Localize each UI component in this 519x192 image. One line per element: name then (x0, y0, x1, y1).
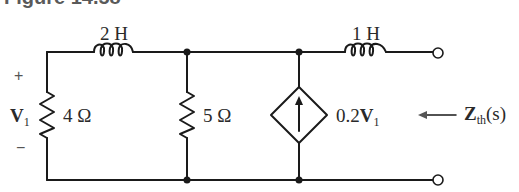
zth-arrowhead-icon (418, 111, 427, 119)
inductor-1h (345, 44, 386, 56)
v1-subscript: 1 (24, 115, 30, 129)
label-source-value: 0.2V1 (336, 106, 379, 125)
zth-subscript: th (477, 113, 486, 127)
label-zth: Zth(s) (464, 104, 506, 123)
node-dot-top-mid (184, 49, 191, 56)
node-dot-top-src (296, 49, 303, 56)
node-dot-bottom-src (296, 177, 303, 184)
label-4-ohm: 4 Ω (63, 106, 91, 125)
inductor-2h (94, 44, 133, 56)
source-var: V (360, 105, 374, 126)
minus-sign: − (16, 140, 25, 156)
circuit-diagram: Figure 14.58 (0, 0, 519, 192)
source-coef: 0.2 (336, 105, 360, 126)
source-subscript: 1 (373, 115, 379, 129)
zth-arg: (s) (486, 103, 506, 124)
label-2h: 2 H (100, 24, 128, 43)
plus-sign: + (14, 68, 23, 84)
source-arrow-icon (295, 96, 303, 105)
node-dot-bottom-mid (184, 177, 191, 184)
label-5-ohm: 5 Ω (203, 106, 231, 125)
label-1h: 1 H (352, 24, 380, 43)
terminal-bottom (433, 175, 443, 185)
resistor-5-ohm (180, 92, 194, 138)
circuit-schematic (0, 0, 519, 192)
resistor-4-ohm (40, 92, 54, 138)
v1-main: V (10, 105, 24, 126)
label-v1: V1 (10, 106, 30, 125)
terminal-top (433, 48, 443, 58)
zth-main: Z (464, 103, 477, 124)
